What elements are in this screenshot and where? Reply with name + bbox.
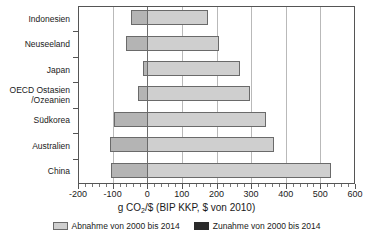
- x-axis-tick-label: 0: [145, 189, 150, 200]
- x-axis-title-subscript: 2: [141, 207, 145, 214]
- x-axis-tick-minor: [327, 184, 328, 187]
- x-axis-tick-label: 600: [347, 189, 362, 200]
- y-axis-label-line: Indonesien: [28, 14, 70, 24]
- bar-segment-positive: [147, 137, 274, 152]
- bar-segment-negative: [114, 112, 148, 127]
- x-axis-tick-minor: [307, 184, 308, 187]
- x-axis-tick-minor: [272, 184, 273, 187]
- x-axis-tick-minor: [106, 184, 107, 187]
- bar-segment-negative: [126, 36, 148, 51]
- bar-segment-positive: [147, 163, 331, 178]
- co2-intensity-bar-chart: IndonesienNeuseelandJapanOECD Ostasien/O…: [0, 0, 373, 238]
- x-axis-tick-minor: [230, 184, 231, 187]
- bar-row: [78, 31, 355, 56]
- x-axis-tick-minor: [196, 184, 197, 187]
- x-axis-tick-minor: [341, 184, 342, 187]
- x-axis-title-pre: g CO: [118, 202, 141, 213]
- bar-segment-positive: [147, 10, 208, 25]
- y-axis-label-line: Japan: [47, 65, 70, 75]
- x-axis-tick-minor: [120, 184, 121, 187]
- bar-segment-negative: [131, 10, 149, 25]
- x-axis-tick-minor: [99, 184, 100, 187]
- bar-row: [78, 159, 355, 184]
- y-axis-label: Südkorea: [34, 115, 70, 125]
- x-axis-tick-minor: [154, 184, 155, 187]
- legend-swatch-increase-icon: [194, 222, 209, 230]
- legend-item[interactable]: Zunahme von 2000 bis 2014: [194, 221, 321, 231]
- x-axis-tick-label: 300: [244, 189, 259, 200]
- bars-layer: [78, 6, 355, 184]
- x-axis-tick-minor: [161, 184, 162, 187]
- bar-segment-positive: [147, 36, 219, 51]
- x-axis-tick-minor: [126, 184, 127, 187]
- y-axis-label-line: OECD Ostasien: [10, 85, 70, 95]
- y-axis-label: Japan: [47, 65, 70, 75]
- bar-segment-positive: [147, 86, 250, 101]
- bar-row: [78, 57, 355, 82]
- x-axis-tick-label: -200: [69, 189, 87, 200]
- chart-legend: Abnahme von 2000 bis 2014Zunahme von 200…: [0, 221, 373, 231]
- y-axis-label-line: Australien: [32, 141, 70, 151]
- x-axis-title-post: /$ (BIP KKP, $ von 2010): [145, 202, 255, 213]
- bar-segment-positive: [147, 61, 240, 76]
- x-axis-tick-minor: [300, 184, 301, 187]
- x-axis-tick-minor: [92, 184, 93, 187]
- x-axis-tick-minor: [85, 184, 86, 187]
- x-axis-tick-minor: [313, 184, 314, 187]
- bar-segment-positive: [147, 112, 266, 127]
- x-axis-tick-minor: [244, 184, 245, 187]
- x-axis-tick-label: 500: [313, 189, 328, 200]
- x-axis-tick-minor: [189, 184, 190, 187]
- x-axis-tick-minor: [133, 184, 134, 187]
- bar-row: [78, 6, 355, 31]
- x-axis-tick-labels: -200-1000100200300400500600: [0, 189, 373, 201]
- y-axis-label-line: China: [48, 166, 70, 176]
- bar-row: [78, 82, 355, 107]
- y-axis-labels: IndonesienNeuseelandJapanOECD Ostasien/O…: [0, 6, 74, 184]
- x-axis-tick-label: 400: [278, 189, 293, 200]
- y-axis-label-line: Südkorea: [34, 115, 70, 125]
- x-axis-tick-minor: [258, 184, 259, 187]
- x-axis-tick-minor: [168, 184, 169, 187]
- x-axis-tick-label: 200: [209, 189, 224, 200]
- y-axis-label: China: [48, 166, 70, 176]
- y-axis-label: Australien: [32, 141, 70, 151]
- legend-item[interactable]: Abnahme von 2000 bis 2014: [53, 221, 180, 231]
- y-axis-label: OECD Ostasien/Ozeanien: [10, 85, 70, 105]
- x-axis-tick-minor: [203, 184, 204, 187]
- bar-segment-negative: [110, 137, 148, 152]
- x-axis-tick-minor: [265, 184, 266, 187]
- x-axis-tick-label: -100: [104, 189, 122, 200]
- x-axis-tick-minor: [140, 184, 141, 187]
- y-axis-label-line: Neuseeland: [25, 39, 70, 49]
- legend-label: Abnahme von 2000 bis 2014: [72, 221, 180, 231]
- x-axis-title: g CO2/$ (BIP KKP, $ von 2010): [0, 202, 373, 213]
- y-axis-label-line: /Ozeanien: [10, 95, 70, 105]
- x-axis-tick-minor: [175, 184, 176, 187]
- x-axis-tick-minor: [293, 184, 294, 187]
- legend-label: Zunahme von 2000 bis 2014: [213, 221, 321, 231]
- x-axis-tick-minor: [334, 184, 335, 187]
- legend-swatch-decrease-icon: [53, 222, 68, 230]
- y-axis-label: Indonesien: [28, 14, 70, 24]
- bar-row: [78, 108, 355, 133]
- x-axis-tick-minor: [279, 184, 280, 187]
- x-axis-tick-minor: [237, 184, 238, 187]
- x-axis-tick-minor: [223, 184, 224, 187]
- x-axis-tick-minor: [348, 184, 349, 187]
- x-axis-tick-minor: [210, 184, 211, 187]
- bar-row: [78, 133, 355, 158]
- x-axis-tick-label: 100: [174, 189, 189, 200]
- y-axis-label: Neuseeland: [25, 39, 70, 49]
- bar-segment-negative: [111, 163, 149, 178]
